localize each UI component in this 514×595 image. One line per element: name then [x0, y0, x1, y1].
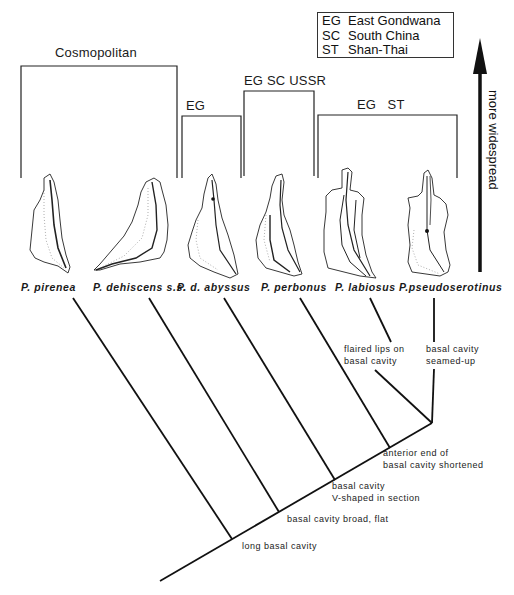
element-abyssus-icon	[188, 174, 238, 278]
cladogram-branch	[375, 370, 432, 423]
legend-row-sc: SC South China	[322, 29, 453, 44]
cladogram-branch	[149, 298, 279, 512]
character-label: basal cavity seamed-up	[426, 343, 479, 367]
region-legend: EG East Gondwana SC South China ST Shan-…	[317, 12, 454, 58]
species-label: P. d. abyssus	[177, 281, 251, 293]
conodont-drawings	[30, 168, 450, 278]
character-label: basal cavity V-shaped in section	[332, 480, 420, 504]
cladogram-branch	[432, 369, 434, 423]
species-label: P. labiosus	[335, 281, 396, 293]
legend-code: EG	[322, 14, 348, 29]
bracket-line	[244, 91, 314, 176]
bracket-line	[21, 66, 177, 178]
legend-row-eg: EG East Gondwana	[322, 14, 453, 29]
character-label: long basal cavity	[242, 540, 317, 552]
distribution-brackets	[21, 66, 457, 178]
bracket-label: Cosmopolitan	[55, 45, 137, 60]
legend-row-st: ST Shan-Thai	[322, 43, 453, 58]
element-dehiscens-icon	[94, 178, 168, 270]
cladogram-branch	[300, 298, 390, 448]
bracket-label: EG SC USSR	[244, 73, 326, 88]
species-label: P. dehiscens s.s.	[93, 281, 186, 293]
legend-code: ST	[322, 43, 348, 58]
character-label: anterior end of basal cavity shortened	[383, 447, 484, 471]
element-pirenea-icon	[30, 174, 70, 273]
legend-name: Shan-Thai	[348, 43, 408, 58]
bracket-label: EG	[186, 98, 205, 113]
cladogram-branch	[224, 298, 335, 480]
widespread-arrow-icon	[473, 38, 487, 272]
character-label: flaired lips on basal cavity	[344, 343, 405, 367]
cladogram-branch	[73, 298, 232, 539]
bracket-line	[182, 116, 241, 178]
bracket-line	[318, 115, 457, 178]
element-labiosus-icon	[324, 168, 376, 278]
legend-name: South China	[348, 29, 420, 44]
character-label: basal cavity broad, flat	[287, 513, 389, 525]
cladogram-lines	[73, 298, 434, 581]
element-pseudoserotinus-icon	[408, 170, 450, 276]
cladogram-figure	[0, 0, 514, 595]
axis-label: more widespread	[486, 90, 501, 190]
cladogram-branch	[370, 298, 391, 342]
legend-code: SC	[322, 29, 348, 44]
legend-name: East Gondwana	[348, 14, 441, 29]
species-label: P. pirenea	[21, 281, 76, 293]
species-label: P. perbonus	[261, 281, 327, 293]
species-label: P.pseudoserotinus	[399, 281, 502, 293]
element-perbonus-icon	[256, 174, 302, 276]
bracket-label: EG ST	[357, 97, 405, 112]
